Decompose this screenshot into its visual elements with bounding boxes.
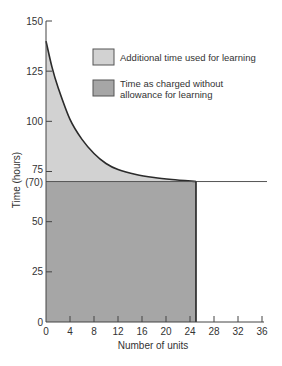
legend-label-charged-line2: allowance for learning xyxy=(120,89,212,100)
x-tick-label: 8 xyxy=(91,326,97,337)
x-tick-label: 24 xyxy=(184,326,196,337)
y-tick-label: 50 xyxy=(32,216,44,227)
legend-item-learning: Additional time used for learning xyxy=(93,49,256,65)
x-tick-label: 0 xyxy=(43,326,49,337)
charged-time-area xyxy=(46,182,196,322)
legend-item-charged: Time as charged without allowance for le… xyxy=(93,78,224,100)
y-tick-label: 150 xyxy=(26,16,43,27)
x-tick-label: 16 xyxy=(136,326,148,337)
y-axis-title: Time (hours) xyxy=(11,152,22,208)
y-tick-label: 125 xyxy=(26,66,43,77)
x-tick-label: 28 xyxy=(208,326,220,337)
x-tick-label: 4 xyxy=(67,326,73,337)
x-tick-label: 32 xyxy=(232,326,244,337)
y-tick-label: 100 xyxy=(26,116,43,127)
x-tick-label: 36 xyxy=(256,326,268,337)
y-tick-label: (70) xyxy=(25,177,43,188)
legend: Additional time used for learning Time a… xyxy=(93,49,256,100)
legend-swatch-charged xyxy=(93,80,114,96)
x-tick-label: 12 xyxy=(112,326,124,337)
x-tick-label: 20 xyxy=(160,326,172,337)
legend-label-charged-line1: Time as charged without xyxy=(120,78,224,89)
y-tick-label: 25 xyxy=(32,266,44,277)
x-axis-title: Number of units xyxy=(118,340,189,351)
legend-label-learning: Additional time used for learning xyxy=(120,52,256,63)
learning-curve-chart: 02550(70)75100125150 04812162024283236 N… xyxy=(0,0,282,366)
legend-swatch-learning xyxy=(93,49,114,65)
y-tick-label: 75 xyxy=(32,164,44,175)
